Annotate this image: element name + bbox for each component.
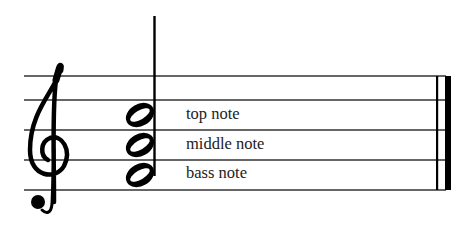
note-head-top (122, 98, 159, 132)
final-barline (436, 76, 451, 190)
note-head-bass (122, 158, 159, 192)
chord (122, 16, 159, 192)
label-middle-note: middle note (186, 136, 264, 153)
label-top-note: top note (186, 106, 240, 123)
clef-tail-dot (31, 195, 45, 209)
label-bass-note: bass note (186, 165, 247, 182)
note-head-middle (122, 128, 159, 162)
